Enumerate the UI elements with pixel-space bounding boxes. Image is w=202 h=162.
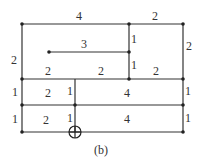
edge-weight-label: 1	[131, 58, 137, 72]
edge-weight-label: 2	[43, 113, 49, 127]
start-marker-icon	[69, 126, 81, 138]
graph-node	[181, 103, 185, 107]
graph-node	[20, 22, 24, 26]
edge-labels: 42231122221214112141	[11, 9, 192, 127]
graph-node	[20, 103, 24, 107]
edge-weight-label: 3	[81, 37, 87, 51]
graph-node	[181, 77, 185, 81]
edge-weight-label: 1	[12, 85, 18, 99]
graph-node	[127, 22, 131, 26]
edge-weight-label: 2	[153, 64, 159, 78]
figure-caption: (b)	[94, 143, 108, 157]
edge-weight-label: 2	[186, 39, 192, 53]
graph-node	[181, 130, 185, 134]
graph-node	[47, 50, 51, 54]
edge-weight-label: 2	[98, 64, 104, 78]
edge-weight-label: 1	[185, 111, 191, 125]
edge-weight-label: 1	[67, 111, 73, 125]
edge-weight-label: 4	[124, 112, 130, 126]
graph-node	[20, 130, 24, 134]
graph-node	[20, 77, 24, 81]
edge-weight-label: 2	[45, 64, 51, 78]
edge-weight-label: 1	[131, 32, 137, 46]
edge-weight-label: 4	[124, 86, 130, 100]
edge-weight-label: 1	[12, 112, 18, 126]
edge-weight-label: 1	[67, 84, 73, 98]
edge-weight-label: 2	[11, 53, 17, 67]
edge-weight-label: 4	[76, 9, 82, 23]
edge-weight-label: 2	[45, 86, 51, 100]
graph-node	[181, 22, 185, 26]
graph-node	[127, 50, 131, 54]
graph-node	[73, 103, 77, 107]
edge-weight-label: 2	[152, 9, 158, 23]
edge-weight-label: 1	[185, 84, 191, 98]
graph-diagram: 42231122221214112141 (b)	[0, 0, 202, 162]
graph-node	[127, 77, 131, 81]
